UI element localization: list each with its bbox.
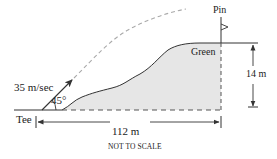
angle-label: 45° xyxy=(51,95,66,106)
scale-note: NOT TO SCALE xyxy=(108,143,162,151)
height-label: 14 m xyxy=(246,69,266,79)
distance-label: 112 m xyxy=(112,126,139,137)
pin-label: Pin xyxy=(213,5,226,15)
green-label: Green xyxy=(191,47,215,57)
velocity-label: 35 m/sec xyxy=(14,82,53,93)
tee-label: Tee xyxy=(16,114,32,125)
pin-flag xyxy=(221,24,228,30)
